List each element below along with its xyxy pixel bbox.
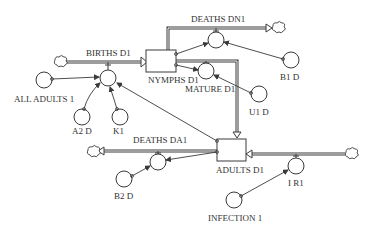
connector-adults-deaths-da — [166, 152, 217, 160]
converter-label: U1 D — [249, 107, 269, 117]
converter-all-adults[interactable]: ALL ADULTS 1 — [14, 72, 74, 104]
flow-label: I R1 — [288, 178, 304, 188]
converter-label: B2 D — [114, 191, 134, 201]
converter-b1d[interactable]: B1 D — [280, 52, 300, 82]
converter-b2d[interactable]: B2 D — [114, 171, 134, 201]
connector-all-adults-births — [52, 77, 99, 79]
flow-label: DEATHS DN1 — [191, 14, 245, 24]
connector-k1-births — [110, 87, 117, 109]
connector-b1d-deaths-dn — [224, 42, 283, 59]
converter-infection[interactable]: INFECTION 1 — [208, 192, 262, 223]
converter-u1d[interactable]: U1 D — [249, 86, 269, 117]
stock-adults[interactable]: ADULTS D1 — [216, 139, 264, 175]
stock-nymphs[interactable]: NYMPHS D1 — [146, 50, 199, 85]
converter-a2d[interactable]: A2 D — [72, 109, 92, 136]
converter-label: B1 D — [280, 72, 300, 82]
flow-births[interactable]: BIRTHS D1 — [86, 48, 131, 86]
converter-label: K1 — [113, 126, 124, 136]
flow-label: BIRTHS D1 — [86, 48, 131, 58]
converter-label: INFECTION 1 — [208, 213, 262, 223]
cloud-icon — [54, 56, 67, 67]
flow-label: DEATHS DA1 — [133, 135, 187, 145]
converter-k1[interactable]: K1 — [112, 109, 128, 136]
connector-nymphs-deaths-dn — [176, 43, 208, 54]
converter-label: ALL ADULTS 1 — [14, 94, 74, 104]
flow-label: MATURE D1 — [185, 84, 235, 94]
flow-ir[interactable]: I R1 — [288, 154, 304, 188]
cloud-icon — [87, 146, 100, 157]
converter-label: A2 D — [72, 126, 92, 136]
flow-deaths-dn[interactable]: DEATHS DN1 — [191, 14, 245, 48]
connector-b2d-deaths-da — [132, 166, 150, 176]
cloud-icon — [272, 22, 285, 33]
stock-flow-diagram: NYMPHS D1 ADULTS D1 BIRTHS D1 DEATHS DN1… — [0, 0, 372, 233]
cloud-icon — [345, 148, 358, 159]
connector-nymphs-mature — [176, 65, 198, 70]
connector-a2d-births — [84, 83, 100, 109]
stock-label: ADULTS D1 — [216, 165, 264, 175]
